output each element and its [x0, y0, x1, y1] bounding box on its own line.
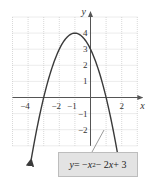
x-tick-label: −2 [52, 101, 62, 111]
y-tick-label: 2 [83, 60, 88, 70]
x-tick-label: −4 [20, 101, 30, 111]
eq-part: − 2 [96, 159, 109, 170]
y-tick-label: −1 [78, 109, 88, 119]
eq-part: = − [74, 159, 88, 170]
x-tick-label: −1 [67, 101, 77, 111]
y-tick-label: −2 [78, 125, 88, 135]
x-axis-label: x [139, 100, 145, 111]
equation-callout: y = −x2 − 2x + 3 [58, 152, 138, 177]
callout-pointer [92, 130, 104, 152]
y-tick-label: 3 [83, 44, 88, 54]
eq-part: + 3 [113, 159, 126, 170]
y-tick-label: 1 [83, 76, 88, 86]
y-axis-label: y [81, 6, 87, 17]
x-tick-label: 2 [119, 101, 124, 111]
parabola-curve [31, 33, 118, 159]
y-tick-label: 4 [83, 28, 88, 38]
